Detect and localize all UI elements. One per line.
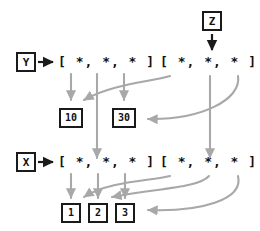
value-box-3[interactable]: 3 <box>115 203 135 223</box>
value-label-10: 10 <box>65 113 77 123</box>
list-x-right[interactable]: [ *, *, * ] <box>160 155 257 168</box>
variable-box-x[interactable]: X <box>16 152 36 172</box>
variable-box-y[interactable]: Y <box>16 52 36 72</box>
ref-arrow-xr1-to-2 <box>112 176 209 197</box>
diagram-canvas: Z Y X [ *, *, * ] [ *, *, * ] [ *, *, * … <box>0 0 260 231</box>
value-label-30: 30 <box>118 113 130 123</box>
value-box-30[interactable]: 30 <box>112 108 136 128</box>
list-z-right[interactable]: [ *, *, * ] <box>160 55 257 68</box>
ref-arrow-xr0-to-1 <box>84 176 170 197</box>
value-box-10[interactable]: 10 <box>59 108 83 128</box>
variable-label-x: X <box>23 157 30 168</box>
variable-box-z[interactable]: Z <box>202 11 222 31</box>
value-label-1: 1 <box>68 208 74 218</box>
ref-arrow-xr2-to-3 <box>148 176 239 210</box>
ref-arrow-zr2-to-30 <box>148 76 238 119</box>
value-label-3: 3 <box>122 208 128 218</box>
value-box-1[interactable]: 1 <box>61 203 81 223</box>
variable-label-z: Z <box>209 16 216 27</box>
list-y-left[interactable]: [ *, *, * ] <box>58 55 155 68</box>
list-x-left[interactable]: [ *, *, * ] <box>58 155 155 168</box>
ref-arrow-zr0-to-10 <box>84 76 170 100</box>
value-box-2[interactable]: 2 <box>88 203 108 223</box>
value-label-2: 2 <box>95 208 101 218</box>
variable-label-y: Y <box>23 57 30 68</box>
